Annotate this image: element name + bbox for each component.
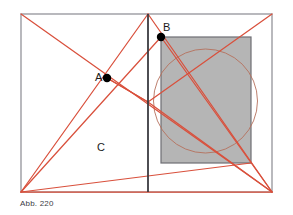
figure-caption: Abb. 220 bbox=[20, 199, 54, 208]
geometry-diagram: A B C Abb. 220 bbox=[0, 0, 293, 215]
point-label-b: B bbox=[163, 21, 170, 33]
point-marker-b bbox=[157, 33, 165, 41]
point-marker-a bbox=[103, 74, 111, 82]
figure-canvas: A B C Abb. 220 bbox=[0, 0, 293, 215]
point-label-c: C bbox=[97, 141, 105, 153]
point-label-a: A bbox=[95, 71, 103, 83]
